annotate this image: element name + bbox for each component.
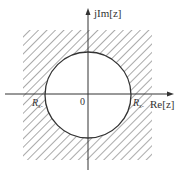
real-axis-arrow-icon xyxy=(167,92,174,97)
imag-axis-arrow-icon xyxy=(86,8,91,15)
imag-axis-label: jIm[z] xyxy=(93,7,121,19)
real-axis-label: Re[z] xyxy=(150,98,174,110)
origin-label: 0 xyxy=(80,96,85,107)
z-plane-diagram: jIm[z] Re[z] 0 Rx- Rx- xyxy=(0,0,185,173)
